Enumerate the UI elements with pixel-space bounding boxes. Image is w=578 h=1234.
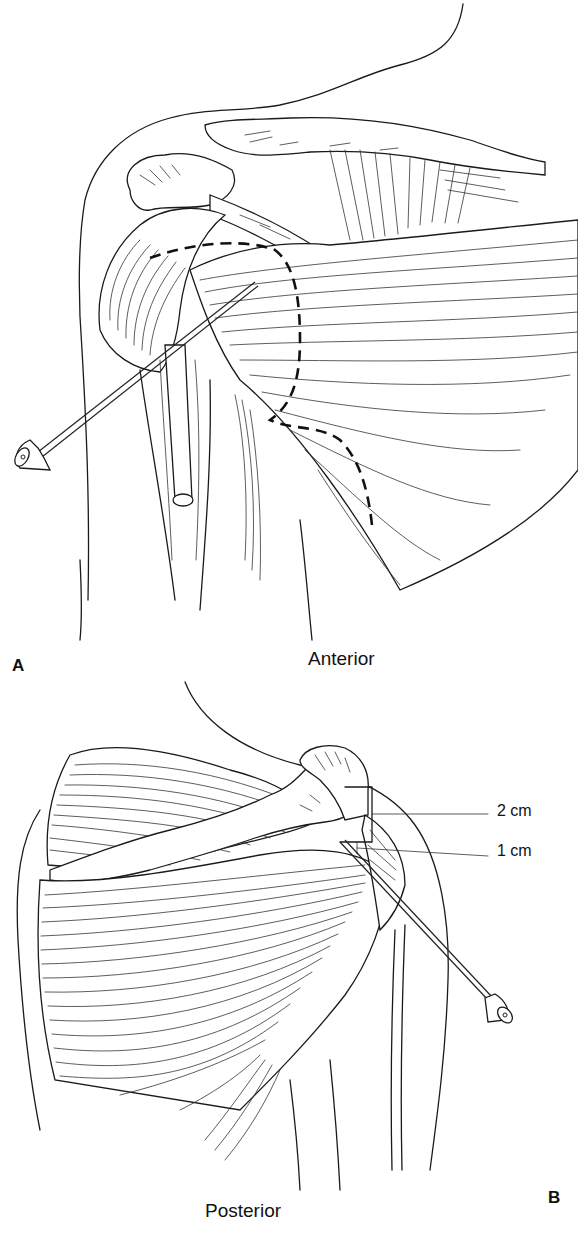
panel-a-anterior: A Anterior [0,0,578,680]
clavicle [205,118,545,175]
infraspinatus-muscle [38,850,390,1110]
measurement-label-2cm: 2 cm [497,802,532,820]
pectoralis-muscle [190,220,578,590]
anterior-shoulder-illustration [0,0,578,680]
humerus [391,925,405,1170]
panel-letter-a: A [12,656,24,676]
panel-letter-b: B [548,1188,560,1208]
view-label-posterior: Posterior [205,1200,281,1222]
measurement-label-1cm: 1 cm [497,842,532,860]
posterior-shoulder-illustration [0,680,578,1234]
humerus [165,345,192,500]
humerus-cut-end [173,494,193,506]
view-label-anterior: Anterior [308,648,375,670]
panel-b-posterior: 2 cm 1 cm Posterior B [0,680,578,1234]
